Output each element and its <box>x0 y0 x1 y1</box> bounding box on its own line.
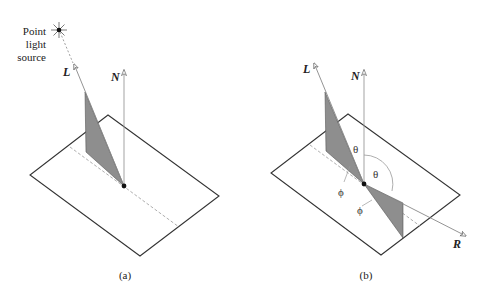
vector-N-label: N <box>110 70 121 84</box>
light-source-label-line-3: source <box>17 51 46 63</box>
diagram-canvas: Point light source L N (a) L N R θ θ <box>0 0 480 289</box>
angle-phi-label-1: ϕ <box>338 186 344 198</box>
vector-L-label: L <box>302 62 310 76</box>
light-source-icon <box>51 22 67 38</box>
theta-arc <box>364 155 393 191</box>
panel-a: Point light source L N (a) <box>17 22 219 282</box>
phi-leader-2 <box>362 200 372 206</box>
vector-L-label: L <box>62 65 70 79</box>
shaded-wedge-reflected <box>364 184 403 238</box>
light-ray-dashed <box>60 32 73 63</box>
surface-point <box>122 184 127 189</box>
vector-R-arrow <box>364 184 466 236</box>
vector-R-label: R <box>452 237 461 251</box>
caption-b: (b) <box>360 269 373 282</box>
angle-theta-label-2: θ <box>373 168 378 180</box>
light-source-label-line-2: light <box>26 38 46 50</box>
light-source-label-line-1: Point <box>23 25 46 37</box>
caption-a: (a) <box>119 269 132 282</box>
angle-phi-label-2: ϕ <box>357 204 363 216</box>
surface-point <box>362 182 367 187</box>
vector-N-label: N <box>350 69 361 83</box>
angle-theta-label-1: θ <box>353 143 358 155</box>
panel-b: L N R θ θ ϕ ϕ (b) <box>271 62 466 282</box>
